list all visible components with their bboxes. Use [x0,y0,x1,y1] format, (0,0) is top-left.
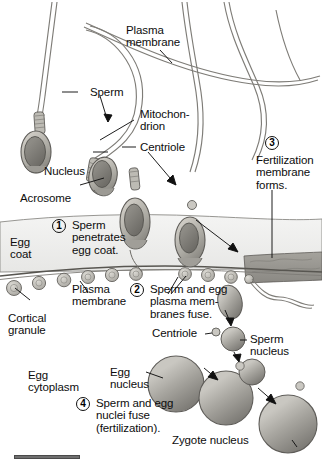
cortical-granule [225,271,238,284]
centriole-shape [296,382,304,390]
label-sperm: Sperm [90,86,123,98]
zygote-nucleus-sphere [259,395,317,453]
cortical-granule [179,268,192,281]
label-zygote-nucleus: Zygote nucleus [172,434,249,446]
label-mitochondrion: Mitochon- drion [140,108,190,133]
label-acrosome: Acrosome [20,192,71,204]
sperm-nucleus-shape [25,137,46,168]
label-nucleus: Nucleus [44,165,85,177]
label-plasma-membrane-top: Plasma membrane [126,24,180,49]
label-egg-cytoplasm: Egg cytoplasm [28,369,79,394]
label-cortical-granule: Cortical granule [8,312,46,337]
sperm-cell [85,155,120,198]
cortical-granule [202,269,215,282]
label-sperm-nucleus: Sperm nucleus [250,333,289,358]
label-egg-coat: Egg coat [10,236,31,261]
fertilization-membrane [244,252,322,283]
cortical-granule [7,281,22,296]
sperm-cell-fusing [175,201,205,268]
cortical-granule [105,268,118,281]
label-centriole-lower: Centriole [152,327,197,339]
entering-sperm [215,279,314,321]
label-egg-nucleus: Egg nucleus [110,366,149,391]
step-text-3: Fertilization membrane forms. [256,154,314,191]
centriole-shape [236,362,244,370]
label-centriole-top: Centriole [140,141,185,153]
step-number-2: 2 [130,283,144,297]
sperm-nucleus-sphere [221,327,245,351]
centriole-shape [188,201,197,210]
step-text-4: Sperm and egg nuclei fuse (fertilization… [96,397,173,434]
step-number-4: 4 [76,397,90,411]
cortical-granule [32,276,45,289]
step-number-3: 3 [265,136,279,150]
cortical-granule [57,273,71,287]
mitochondrion [129,168,140,191]
figure-canvas: Plasma membrane Sperm Mitochon- drion Ce… [0,0,322,467]
cortical-granule [82,271,95,284]
label-plasma-membrane-bottom: Plasma membrane [72,283,126,308]
centriole-shape [212,328,220,336]
step-number-1: 1 [52,219,66,233]
sperm-cell [21,96,51,173]
caption-rule [14,455,80,459]
step-text-2: Sperm and egg plasma mem- branes fuse. [150,283,227,320]
step-text-1: Sperm penetrates egg coat. [72,219,125,256]
